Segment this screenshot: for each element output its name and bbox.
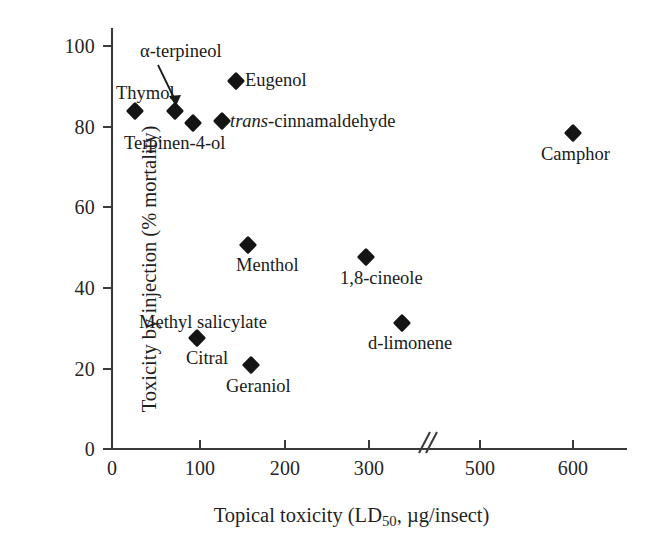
- axis-break-icon: [419, 432, 437, 453]
- point-label-1-8-cineole: 1,8-cineole: [340, 269, 423, 288]
- x-axis-title-tail: , µg/insect): [397, 504, 490, 526]
- y-tick-label-0: 0: [40, 438, 95, 461]
- y-tick-label-40: 40: [40, 277, 95, 300]
- point-label-eugenol: Eugenol: [245, 71, 307, 90]
- y-tick-label-100: 100: [40, 35, 95, 58]
- data-point-camphor[interactable]: [564, 124, 582, 142]
- data-point-alpha-terpineol[interactable]: [166, 102, 184, 120]
- y-tick-label-80: 80: [40, 116, 95, 139]
- x-axis-title: Topical toxicity (LD50, µg/insect): [214, 504, 490, 530]
- point-label-trans-cinnamaldehyde: trans-cinnamaldehyde: [230, 112, 395, 131]
- data-point-menthol[interactable]: [239, 236, 257, 254]
- x-tick-label-600: 600: [558, 457, 589, 480]
- scatter-plot-figure: 100 80 60 40 20 0 0 100 200 300 500 600 …: [0, 0, 659, 538]
- trans-italic-text: trans: [230, 111, 268, 131]
- x-tick-label-300: 300: [354, 457, 385, 480]
- y-tick-label-20: 20: [40, 358, 95, 381]
- point-label-camphor: Camphor: [541, 145, 610, 164]
- x-axis-title-subscript: 50: [382, 513, 397, 529]
- point-label-terpinen-4-ol: Terpinen-4-ol: [124, 134, 225, 153]
- data-point-terpinen-4-ol[interactable]: [184, 114, 202, 132]
- x-tick-label-0: 0: [107, 457, 117, 480]
- point-label-methyl-salicylate: Methyl salicylate: [139, 313, 267, 332]
- point-label-d-limonene: d-limonene: [368, 334, 452, 353]
- data-point-thymol[interactable]: [126, 102, 144, 120]
- y-tick-label-60: 60: [40, 196, 95, 219]
- data-point-1-8-cineole[interactable]: [357, 248, 375, 266]
- x-tick-label-200: 200: [270, 457, 301, 480]
- x-axis-title-main: Topical toxicity (LD: [214, 504, 382, 526]
- data-point-geraniol[interactable]: [242, 356, 260, 374]
- point-label-geraniol: Geraniol: [226, 377, 291, 396]
- point-label-citral: Citral: [186, 349, 228, 368]
- x-tick-label-100: 100: [185, 457, 216, 480]
- x-tick-label-500: 500: [465, 457, 496, 480]
- plot-area: 100 80 60 40 20 0 0 100 200 300 500 600 …: [0, 0, 659, 538]
- point-label-alpha-terpineol: α-terpineol: [140, 42, 222, 61]
- point-label-menthol: Menthol: [236, 256, 299, 275]
- y-axis-title: Toxicity by injection (% mortality): [138, 126, 161, 413]
- trans-rest-text: -cinnamaldehyde: [268, 111, 395, 131]
- point-label-thymol: Thymol: [116, 84, 175, 103]
- data-point-eugenol[interactable]: [227, 72, 245, 90]
- data-point-trans-cinnamaldehyde[interactable]: [213, 112, 231, 130]
- data-point-d-limonene[interactable]: [393, 314, 411, 332]
